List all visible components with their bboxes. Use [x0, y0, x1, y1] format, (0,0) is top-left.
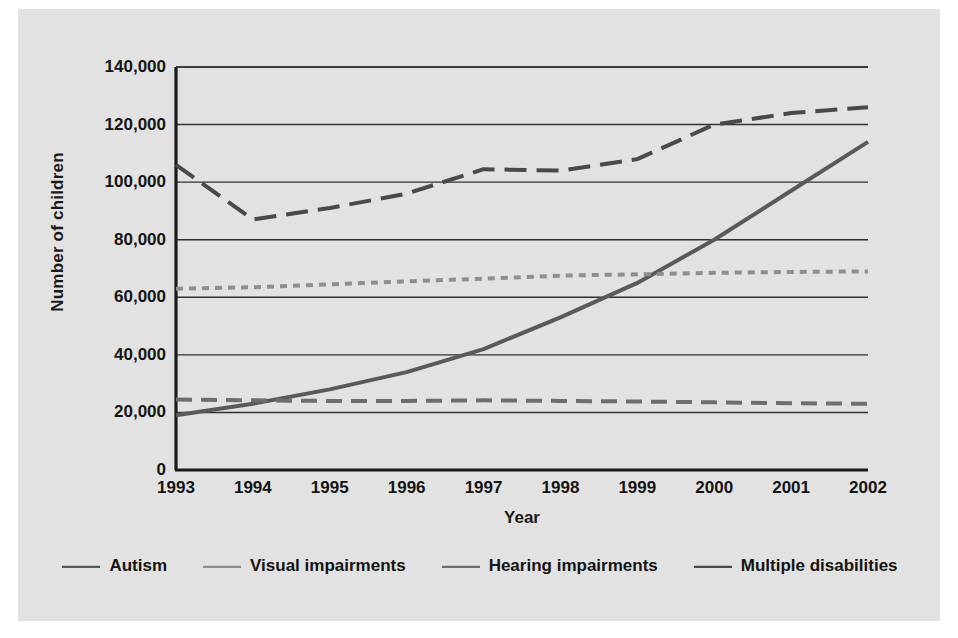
- plot-area: [0, 0, 958, 638]
- legend-item[interactable]: Hearing impairments: [440, 556, 658, 576]
- legend-label: Visual impairments: [250, 556, 406, 576]
- legend-swatch-icon: [440, 564, 480, 568]
- series-line-autism: [176, 142, 868, 415]
- legend-swatch-icon: [201, 564, 241, 568]
- series-line-hearing-impairments: [176, 399, 868, 403]
- legend-item[interactable]: Multiple disabilities: [692, 556, 898, 576]
- chart-figure: Number of children Year 020,00040,00060,…: [0, 0, 958, 638]
- legend-item[interactable]: Visual impairments: [201, 556, 406, 576]
- series-line-visual-impairments: [176, 271, 868, 288]
- legend-label: Multiple disabilities: [741, 556, 898, 576]
- chart-legend: AutismVisual impairmentsHearing impairme…: [18, 556, 940, 576]
- legend-label: Hearing impairments: [489, 556, 658, 576]
- legend-swatch-icon: [692, 564, 732, 568]
- legend-label: Autism: [109, 556, 167, 576]
- legend-item[interactable]: Autism: [60, 556, 167, 576]
- line-chart-svg: [0, 0, 958, 638]
- legend-swatch-icon: [60, 564, 100, 568]
